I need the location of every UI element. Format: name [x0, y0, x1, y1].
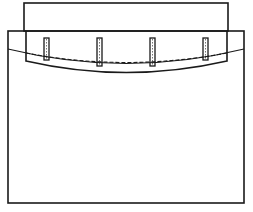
top-panel: [24, 3, 228, 31]
diagram-canvas: [0, 0, 253, 212]
diagram-svg: [0, 0, 253, 212]
curved-inset-piece: [26, 31, 227, 73]
dashed-seam-line: [26, 53, 227, 63]
